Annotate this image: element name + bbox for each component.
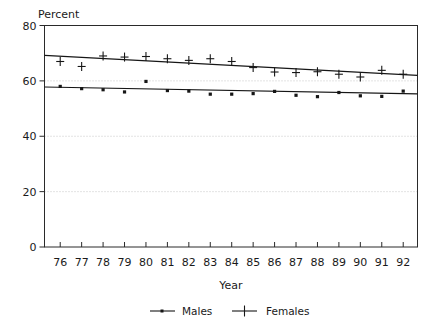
x-tick-label: 80	[139, 256, 153, 269]
data-point-females	[271, 68, 279, 77]
data-point-males	[209, 93, 212, 96]
data-point-females	[78, 62, 86, 71]
legend-item-females: Females	[232, 305, 309, 317]
data-point-males	[80, 87, 83, 90]
x-tick-label: 85	[246, 256, 260, 269]
data-point-males	[380, 95, 383, 98]
x-axis-title: Year	[218, 279, 243, 292]
x-tick-label: 90	[353, 256, 367, 269]
data-point-males	[273, 90, 276, 93]
x-tick-label: 79	[118, 256, 132, 269]
data-point-females	[142, 52, 150, 61]
x-axis-ticks: 7677787980818283848586878889909192	[53, 242, 410, 269]
data-point-females	[399, 70, 407, 79]
data-point-males	[359, 94, 362, 97]
data-point-males	[402, 90, 405, 93]
data-point-females	[249, 63, 257, 72]
legend-males-dot-icon	[161, 310, 164, 313]
data-point-males	[294, 94, 297, 97]
x-tick-label: 78	[96, 256, 110, 269]
chart-svg: Percent 020406080 7677787980818283848586…	[0, 0, 430, 323]
trend-line-females	[45, 55, 418, 75]
x-tick-label: 84	[225, 256, 239, 269]
data-point-females	[313, 67, 321, 76]
data-point-females	[56, 57, 64, 66]
y-tick-label: 20	[23, 186, 37, 199]
data-point-males	[101, 88, 104, 91]
chart-figure: Percent 020406080 7677787980818283848586…	[0, 0, 430, 323]
data-point-females	[206, 54, 214, 63]
data-point-males	[187, 90, 190, 93]
x-tick-label: 81	[160, 256, 174, 269]
x-tick-label: 91	[375, 256, 389, 269]
x-tick-label: 76	[53, 256, 67, 269]
data-point-males	[144, 80, 147, 83]
data-point-males	[123, 90, 126, 93]
data-point-males	[166, 89, 169, 92]
data-point-males	[337, 91, 340, 94]
legend-females-label: Females	[266, 305, 309, 317]
y-tick-label: 60	[23, 75, 37, 88]
gridlines	[45, 81, 418, 192]
x-tick-label: 83	[203, 256, 217, 269]
data-point-males	[230, 93, 233, 96]
data-point-males	[59, 85, 62, 88]
legend-item-males: Males	[150, 305, 212, 317]
x-tick-label: 88	[310, 256, 324, 269]
data-point-females	[228, 57, 236, 66]
x-tick-label: 77	[75, 256, 89, 269]
x-tick-label: 82	[182, 256, 196, 269]
y-axis-ticks: 020406080	[23, 20, 45, 255]
y-axis-title: Percent	[38, 8, 80, 21]
y-tick-label: 80	[23, 20, 37, 33]
x-tick-label: 92	[396, 256, 410, 269]
chart-legend: Males Females	[150, 305, 309, 317]
legend-males-label: Males	[182, 305, 212, 317]
x-tick-label: 86	[268, 256, 282, 269]
x-tick-label: 87	[289, 256, 303, 269]
data-point-females	[356, 72, 364, 81]
y-tick-label: 0	[30, 241, 37, 254]
data-point-males	[252, 92, 255, 95]
y-tick-label: 40	[23, 130, 37, 143]
x-tick-label: 89	[332, 256, 346, 269]
data-point-males	[316, 95, 319, 98]
